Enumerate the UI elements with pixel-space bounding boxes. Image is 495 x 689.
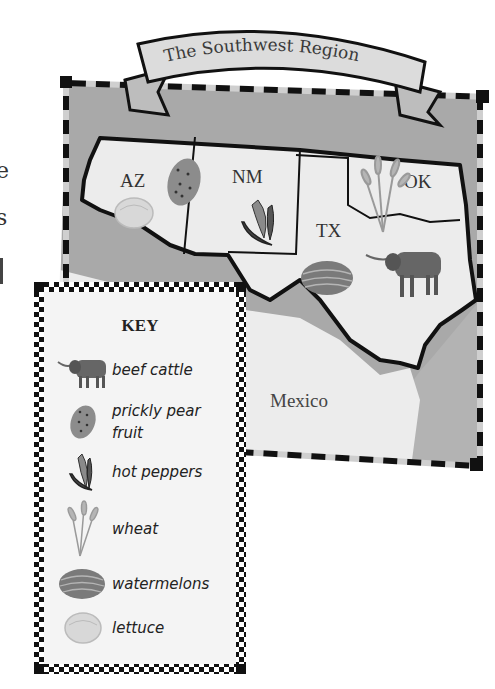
key-label: beef cattle (110, 359, 193, 381)
key-item-lettuce: lettuce (56, 608, 246, 648)
key-label: hot peppers (110, 461, 202, 483)
lettuce-icon (56, 608, 110, 648)
map-key: KEY beef cattle prickly pear fruit (34, 282, 246, 674)
wheat-icon (56, 500, 110, 558)
label-nm: NM (232, 166, 263, 187)
label-mexico: Mexico (270, 390, 328, 411)
key-item-prickly-pear: prickly pear fruit (56, 400, 246, 444)
watermelon-icon (56, 564, 110, 604)
label-az: AZ (120, 170, 145, 191)
key-label: watermelons (110, 573, 209, 595)
key-title: KEY (34, 316, 246, 336)
prickly-pear-icon (56, 400, 110, 444)
key-label: lettuce (110, 617, 164, 639)
lettuce-icon (115, 198, 153, 228)
key-item-hot-peppers: hot peppers (56, 452, 246, 492)
hot-pepper-icon (56, 450, 110, 494)
key-item-watermelons: watermelons (56, 564, 246, 604)
key-item-beef-cattle: beef cattle (56, 350, 246, 390)
watermelon-icon (301, 261, 353, 295)
cattle-icon (56, 350, 110, 390)
key-item-wheat: wheat (56, 500, 246, 558)
label-tx: TX (316, 220, 342, 241)
key-label: wheat (110, 518, 158, 540)
key-label: prickly pear fruit (110, 400, 232, 444)
